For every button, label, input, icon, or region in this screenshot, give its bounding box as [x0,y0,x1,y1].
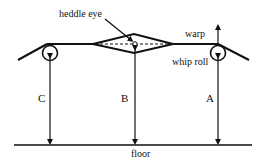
heddle-eye-label: heddle eye [59,8,103,19]
height-c-label: C [38,92,45,104]
warp-label: warp [185,28,205,39]
height-a-dimension: A [206,56,218,142]
height-b-dimension: B [121,48,135,142]
heddle-eye-marker [133,42,137,46]
height-c-dimension: C [38,56,50,142]
floor-label: floor [131,148,151,159]
whip-roll-label: whip roll [172,56,209,67]
heddle-eye-pointer [105,19,131,40]
height-b-label: B [121,92,128,104]
height-a-label: A [206,92,214,104]
warp-diagram: heddle eye warp whip roll C B A floor [0,0,263,164]
